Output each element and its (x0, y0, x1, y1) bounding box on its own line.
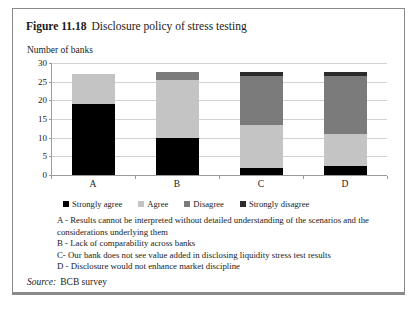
bar-segment (156, 80, 199, 138)
figure-container: Figure 11.18Disclosure policy of stress … (12, 8, 405, 295)
y-tick-label: 25 (38, 77, 47, 86)
x-tick-label: D (303, 179, 387, 189)
bar-segment (324, 134, 367, 166)
bar-segment (72, 104, 115, 175)
stacked-bar-a[interactable] (72, 74, 115, 175)
legend-swatch-icon (138, 201, 144, 207)
bar-slot-a (52, 63, 136, 175)
legend-label: Strongly disagree (249, 199, 309, 209)
legend-label: Agree (147, 199, 168, 209)
y-axis-tick-labels: 051015202530 (27, 63, 47, 175)
legend-label: Strongly agree (72, 199, 122, 209)
legend-item[interactable]: Strongly agree (63, 199, 122, 209)
legend-item[interactable]: Disagree (184, 199, 224, 209)
bar-slot-c (220, 63, 304, 175)
footnote: C- Our bank does not see value added in … (57, 250, 402, 262)
bar-segment (156, 138, 199, 175)
source-label: Source: (27, 277, 56, 287)
footnote-list: A - Results cannot be interpreted withou… (57, 215, 402, 273)
y-tick-label: 10 (38, 133, 47, 142)
bar-segment (72, 74, 115, 104)
x-tick-label: B (135, 179, 219, 189)
chart-legend: Strongly agreeAgreeDisagreeStrongly disa… (63, 199, 309, 209)
footnote: D - Disclosure would not enhance market … (57, 261, 402, 273)
legend-swatch-icon (184, 201, 190, 207)
x-tick-label: A (51, 179, 135, 189)
bar-slot-d (303, 63, 387, 175)
y-tick-label: 5 (43, 152, 48, 161)
stacked-bar-b[interactable] (156, 72, 199, 175)
y-tick-label: 30 (38, 59, 47, 68)
bar-segment (324, 76, 367, 134)
figure-title: Figure 11.18Disclosure policy of stress … (26, 20, 247, 33)
source-line: Source:BCB survey (27, 277, 107, 287)
y-tick-label: 0 (43, 171, 48, 180)
figure-number: Figure 11.18 (26, 20, 86, 32)
y-tick-label: 15 (38, 115, 47, 124)
y-tick-label: 20 (38, 96, 47, 105)
chart-plot: 051015202530 ABCD (27, 63, 387, 191)
footnote: A - Results cannot be interpreted withou… (57, 215, 402, 238)
x-tick-mark (387, 176, 388, 179)
bar-segment (156, 72, 199, 79)
bar-segment (324, 166, 367, 175)
legend-label: Disagree (193, 199, 224, 209)
y-axis-title: Number of banks (27, 45, 93, 55)
footnote: B - Lack of comparability across banks (57, 238, 402, 250)
bar-segment (240, 168, 283, 175)
stacked-bar-d[interactable] (324, 72, 367, 175)
bar-slot-b (136, 63, 220, 175)
bar-group (52, 63, 387, 175)
x-axis-tick-labels: ABCD (51, 179, 387, 189)
legend-item[interactable]: Agree (138, 199, 168, 209)
legend-swatch-icon (63, 201, 69, 207)
x-tick-label: C (219, 179, 303, 189)
bar-segment (240, 125, 283, 168)
bottom-rule (13, 292, 404, 294)
stacked-bar-c[interactable] (240, 72, 283, 175)
figure-caption: Disclosure policy of stress testing (86, 20, 246, 32)
source-value: BCB survey (56, 277, 107, 287)
legend-swatch-icon (240, 201, 246, 207)
bar-segment (240, 76, 283, 125)
plot-area (51, 63, 387, 176)
legend-item[interactable]: Strongly disagree (240, 199, 309, 209)
